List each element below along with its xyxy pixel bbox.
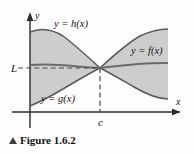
x-axis-arrow <box>172 109 180 116</box>
curve-g-label: y = g(x) <box>41 94 75 105</box>
limit-value-label: L <box>11 63 17 74</box>
figure-container: y x L c y = h(x) y = f(x) y = g(x) Figur… <box>0 0 194 154</box>
curve-h-label: y = h(x) <box>54 19 88 30</box>
x-axis-label: x <box>176 97 180 107</box>
squeeze-theorem-plot <box>0 0 194 154</box>
figure-caption-text: Figure 1.6.2 <box>20 134 76 146</box>
y-axis-arrow <box>27 12 34 21</box>
y-axis-label: y <box>35 11 39 21</box>
figure-caption: Figure 1.6.2 <box>9 134 76 146</box>
curve-f-label: y = f(x) <box>131 46 163 57</box>
point-c-label: c <box>98 117 103 128</box>
triangle-up-icon <box>9 137 17 144</box>
